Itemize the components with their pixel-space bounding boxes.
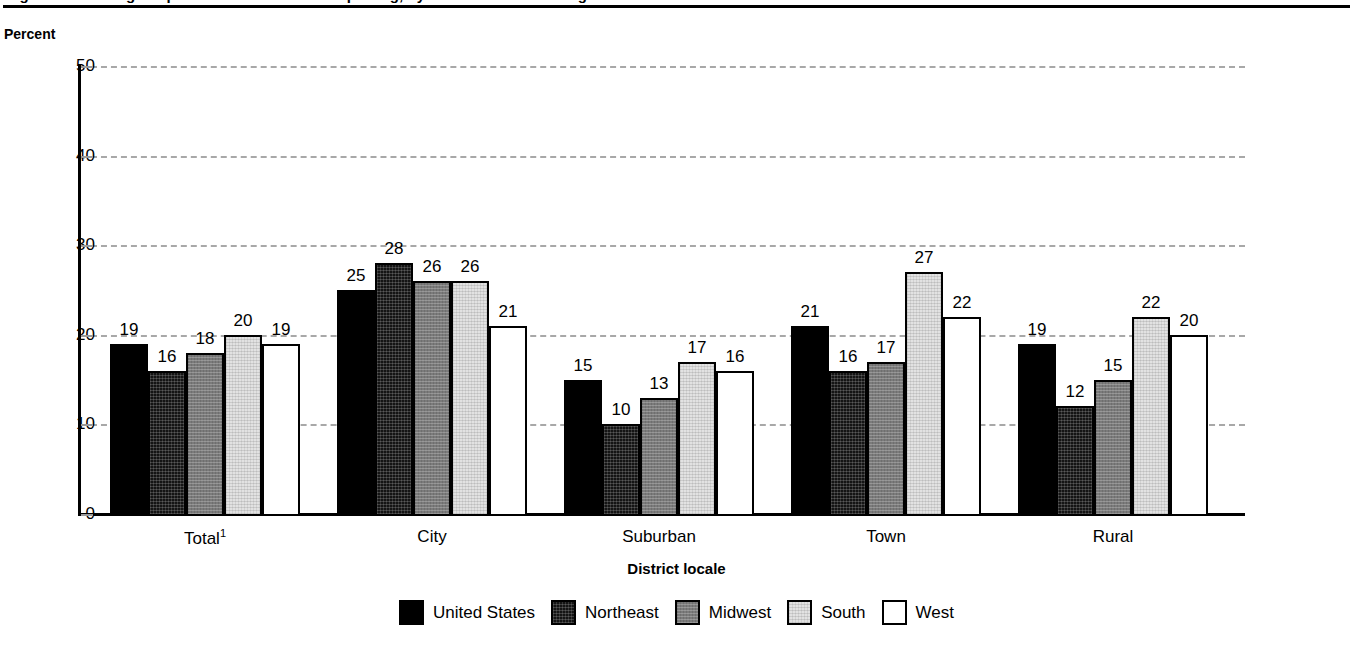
legend-label: West <box>916 603 954 623</box>
bar-value-label: 15 <box>559 356 607 376</box>
bar-value-label: 26 <box>446 257 494 277</box>
legend-swatch <box>882 600 907 625</box>
chart-legend: United StatesNortheastMidwestSouthWest <box>0 600 1353 625</box>
bar <box>489 326 527 514</box>
legend-item: United States <box>399 600 535 625</box>
legend-label: Northeast <box>585 603 659 623</box>
bar <box>678 362 716 514</box>
y-tick-mark <box>81 66 93 68</box>
x-tick-label: Total1 <box>85 527 325 549</box>
bar <box>640 398 678 514</box>
bar <box>716 371 754 514</box>
y-tick-mark <box>81 156 93 158</box>
bar-value-label: 17 <box>862 338 910 358</box>
bar-value-label: 21 <box>484 302 532 322</box>
x-tick-label: Suburban <box>539 527 779 547</box>
legend-swatch <box>787 600 812 625</box>
bar-value-label: 18 <box>181 329 229 349</box>
bar-value-label: 16 <box>143 347 191 367</box>
gridline-40 <box>81 156 1245 158</box>
chart-page: Figure: Percentage of public school dist… <box>0 0 1353 657</box>
x-axis-title: District locale <box>0 560 1353 577</box>
y-axis-label: Percent <box>4 26 55 42</box>
legend-item: Northeast <box>551 600 659 625</box>
legend-item: Midwest <box>675 600 771 625</box>
bar-value-label: 22 <box>938 293 986 313</box>
bar <box>1132 317 1170 514</box>
bar <box>1094 380 1132 514</box>
bar-value-label: 19 <box>1013 320 1061 340</box>
bar <box>943 317 981 514</box>
bar <box>602 424 640 514</box>
figure-title-clip: Figure: Percentage of public school dist… <box>0 0 1353 4</box>
bar <box>1056 406 1094 514</box>
bar-value-label: 20 <box>1165 311 1213 331</box>
bar <box>110 344 148 514</box>
legend-label: Midwest <box>709 603 771 623</box>
bar-value-label: 16 <box>711 347 759 367</box>
legend-swatch <box>399 600 424 625</box>
legend-swatch <box>675 600 700 625</box>
gridline-30 <box>81 245 1245 247</box>
x-tick-label: Rural <box>993 527 1233 547</box>
bar <box>224 335 262 514</box>
bar-value-label: 25 <box>332 266 380 286</box>
legend-item: South <box>787 600 865 625</box>
bar-value-label: 12 <box>1051 382 1099 402</box>
bar <box>262 344 300 514</box>
legend-item: West <box>882 600 954 625</box>
bar <box>829 371 867 514</box>
figure-title: Figure: Percentage of public school dist… <box>6 0 610 3</box>
x-tick-label: Town <box>766 527 1006 547</box>
bar-value-label: 27 <box>900 248 948 268</box>
x-tick-label: City <box>312 527 552 547</box>
bar-value-label: 21 <box>786 302 834 322</box>
y-tick-mark <box>81 245 93 247</box>
bar <box>375 263 413 514</box>
gridline-50 <box>81 66 1245 68</box>
title-rule <box>3 5 1350 8</box>
y-tick-mark <box>81 335 93 337</box>
bar-value-label: 10 <box>597 400 645 420</box>
bar <box>148 371 186 514</box>
bar-value-label: 15 <box>1089 356 1137 376</box>
bar <box>1170 335 1208 514</box>
legend-label: South <box>821 603 865 623</box>
bar-value-label: 19 <box>105 320 153 340</box>
y-tick-mark <box>81 514 93 516</box>
y-tick-mark <box>81 424 93 426</box>
bar <box>337 290 375 514</box>
bar <box>413 281 451 514</box>
bar <box>186 353 224 514</box>
bar-value-label: 19 <box>257 320 305 340</box>
legend-swatch <box>551 600 576 625</box>
bar <box>867 362 905 514</box>
plot-area: 1916182019252826262115101317162116172722… <box>81 66 1245 514</box>
bar-value-label: 13 <box>635 374 683 394</box>
legend-label: United States <box>433 603 535 623</box>
bar <box>1018 344 1056 514</box>
